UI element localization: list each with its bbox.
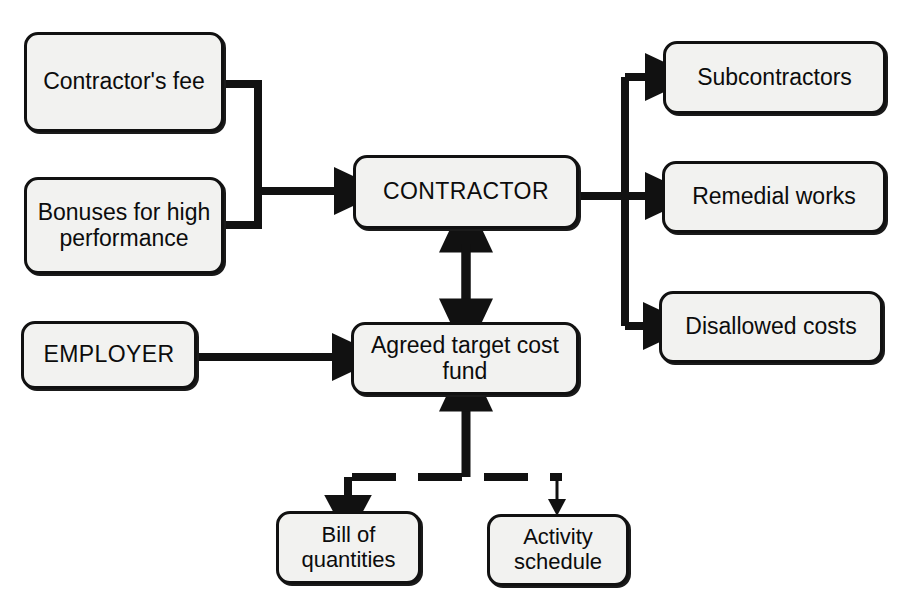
- node-bill-of-quantities: Bill of quantities: [276, 511, 421, 584]
- node-disallowed-costs-label: Disallowed costs: [685, 314, 856, 340]
- node-subcontractors-label: Subcontractors: [697, 65, 852, 91]
- node-disallowed-costs: Disallowed costs: [659, 291, 883, 363]
- node-bonuses-for-high-performance: Bonuses for high performance: [24, 177, 224, 274]
- node-bill-of-quantities-label: Bill of quantities: [301, 523, 395, 572]
- node-contractors-fee-label: Contractor's fee: [43, 69, 205, 95]
- node-bonuses-label: Bonuses for high performance: [38, 200, 211, 252]
- node-subcontractors: Subcontractors: [663, 41, 886, 114]
- diagram-canvas: Contractor's fee Bonuses for high perfor…: [0, 0, 902, 606]
- node-contractor-label: CONTRACTOR: [383, 179, 549, 205]
- node-contractor: CONTRACTOR: [353, 155, 579, 229]
- node-employer: EMPLOYER: [21, 321, 197, 389]
- node-employer-label: EMPLOYER: [43, 342, 174, 368]
- node-agreed-target-cost-fund: Agreed target cost fund: [351, 322, 579, 395]
- edge-fee-bonuses-to-contractor: [224, 84, 337, 225]
- edge-dashed-document-bus: [348, 477, 562, 500]
- node-remedial-works: Remedial works: [662, 161, 886, 233]
- edge-contractor-to-outputs: [579, 77, 648, 326]
- node-remedial-works-label: Remedial works: [692, 184, 856, 210]
- node-activity-schedule-label: Activity schedule: [514, 525, 602, 574]
- node-activity-schedule: Activity schedule: [487, 514, 629, 586]
- node-fund-label: Agreed target cost fund: [371, 333, 559, 385]
- node-contractors-fee: Contractor's fee: [24, 32, 224, 132]
